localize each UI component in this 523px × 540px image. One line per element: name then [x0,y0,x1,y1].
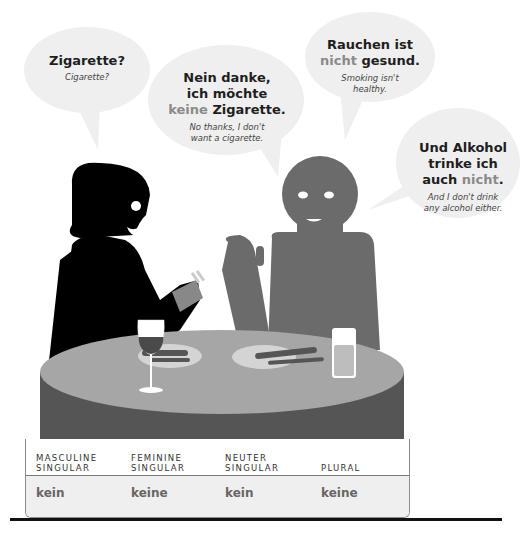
bubble-1-german: Zigarette? [34,53,140,69]
bubble-3-english-line1: Smoking isn't [310,73,430,84]
table-header-row: MASCULINESINGULAR FEMININESINGULAR NEUTE… [26,439,409,475]
table-value-row: kein keine kein keine [26,475,409,518]
negation-word: keine [168,102,208,117]
bubble-3-german-rest: gesund. [357,53,420,68]
value-neuter: kein [225,486,253,500]
man-figure [222,156,380,350]
bubble-3-english-line2: healthy. [310,84,430,95]
value-masculine: kein [36,486,64,500]
bubble-2-german-line2: ich möchte [152,86,302,102]
bubble-4-english-line2: any alcohol either. [403,203,523,214]
speech-bubble-1 [24,27,150,150]
bubble-1-text: Zigarette? Cigarette? [34,53,140,83]
value-feminine: keine [131,486,168,500]
bubble-3-german-line1: Rauchen ist [310,37,430,53]
value-plural: keine [321,486,358,500]
bubble-2-text: Nein danke, ich möchte keine Zigarette. … [152,70,302,144]
negation-word: nicht [462,172,499,187]
bubble-4-german-pre: auch [422,172,462,187]
header-masculine: MASCULINESINGULAR [36,453,97,473]
bubble-2-english-line1: No thanks, I don't [152,122,302,133]
header-plural: PLURAL [321,463,361,473]
bubble-2-english-line2: want a cigarette. [152,133,302,144]
bubble-4-english-line1: And I don't drink [403,192,523,203]
kein-declension-table: MASCULINESINGULAR FEMININESINGULAR NEUTE… [25,439,410,518]
water-glass-icon [332,328,356,378]
bubble-4-german-rest: . [499,172,504,187]
bubble-2-german-line1: Nein danke, [152,70,302,86]
divider-rule [10,518,502,521]
bubble-4-german-line2: trinke ich [403,156,523,172]
bubble-1-english: Cigarette? [34,72,140,83]
header-neuter: NEUTERSINGULAR [225,453,279,473]
header-feminine: FEMININESINGULAR [131,453,185,473]
bubble-4-german-line1: Und Alkohol [403,140,523,156]
bubble-3-text: Rauchen ist nicht gesund. Smoking isn't … [310,37,430,95]
bubble-4-text: Und Alkohol trinke ich auch nicht. And I… [403,140,523,214]
bubble-2-german-rest: Zigarette. [208,102,286,117]
negation-word: nicht [320,53,357,68]
